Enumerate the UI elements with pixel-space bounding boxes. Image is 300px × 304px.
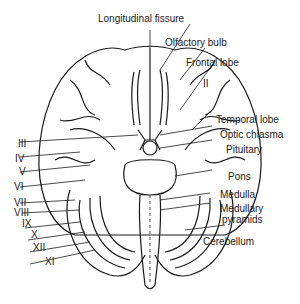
label-nerve-xi: XI (45, 256, 54, 267)
label-nerve-ix: IX (22, 218, 31, 229)
label-nerve-viii: VIII (14, 207, 29, 218)
label-olfactory-bulb: Olfactory bulb (165, 37, 227, 48)
label-optic-chiasma: Optic chiasma (220, 129, 283, 140)
label-pituitary: Pituitary (226, 144, 262, 155)
label-medullary-pyramids-2: pyramids (222, 214, 263, 225)
label-longitudinal-fissure: Longitudinal fissure (98, 13, 184, 24)
label-nerve-iv: IV (15, 153, 24, 164)
label-medulla: Medulla (220, 189, 255, 200)
label-cerebellum: Cerebellum (203, 236, 254, 247)
label-nerve-vi: VI (14, 181, 23, 192)
label-pons: Pons (228, 171, 251, 182)
label-frontal-lobe: Frontal lobe (186, 57, 239, 68)
label-temporal-lobe: Temporal lobe (216, 114, 279, 125)
label-nerve-x: X (31, 229, 38, 240)
label-nerve-v: V (19, 166, 26, 177)
label-medullary-pyramids-1: Medullary (220, 203, 263, 214)
label-nerve-xii: XII (33, 242, 45, 253)
label-nerve-iii: III (18, 138, 26, 149)
label-nerve-ii: II (203, 78, 209, 89)
